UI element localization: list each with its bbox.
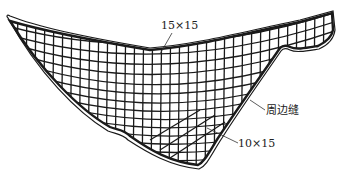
- label-perimeter-seam: 周边缝: [266, 105, 299, 116]
- label-top-grid-size: 15×15: [161, 20, 198, 31]
- leader-edge: [250, 100, 265, 110]
- label-bottom-grid-size: 10×15: [238, 138, 275, 149]
